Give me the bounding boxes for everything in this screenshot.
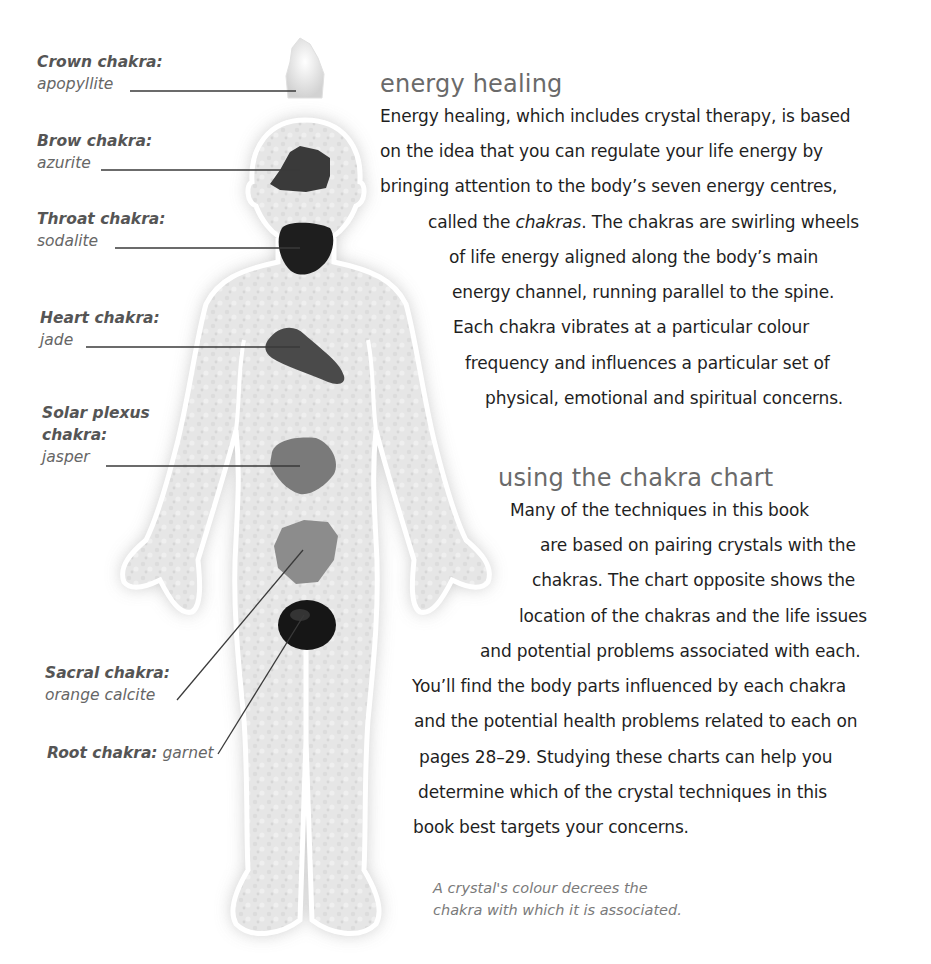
text-line: are based on pairing crystals with the xyxy=(540,535,856,555)
chakra-label-solar-plexus: Solar plexus chakra: jasper xyxy=(42,402,150,468)
chakra-label-root: Root chakra: garnet xyxy=(47,742,214,764)
chakra-label-throat: Throat chakra: sodalite xyxy=(37,208,165,252)
heading-energy-healing: energy healing xyxy=(380,70,563,98)
stone-name: azurite xyxy=(37,154,91,172)
caption-line: A crystal's colour decrees the xyxy=(433,877,682,899)
chakra-label-brow: Brow chakra: azurite xyxy=(37,130,152,174)
text-line: Energy healing, which includes crystal t… xyxy=(380,106,851,126)
stone-name: sodalite xyxy=(37,232,98,250)
text-line: You’ll find the body parts influenced by… xyxy=(412,676,846,696)
text-line: bringing attention to the body’s seven e… xyxy=(380,176,837,196)
text-line: chakras. The chart opposite shows the xyxy=(532,570,855,590)
stone-name: jasper xyxy=(42,448,90,466)
stone-name: apopyllite xyxy=(37,75,113,93)
text-line: and potential problems associated with e… xyxy=(480,641,861,661)
chakra-label-crown: Crown chakra: apopyllite xyxy=(37,51,163,95)
text-line: location of the chakras and the life iss… xyxy=(519,606,867,626)
chakra-name: Sacral chakra: xyxy=(45,662,170,684)
figure-caption: A crystal's colour decrees the chakra wi… xyxy=(433,877,682,921)
text-line: pages 28–29. Studying these charts can h… xyxy=(419,747,832,767)
text-line: book best targets your concerns. xyxy=(413,817,689,837)
text-line: Many of the techniques in this book xyxy=(510,500,809,520)
text-line: and the potential health problems relate… xyxy=(414,711,857,731)
chakra-label-sacral: Sacral chakra: orange calcite xyxy=(45,662,170,706)
chakra-name-line1: Solar plexus xyxy=(42,402,150,424)
emphasis-chakras: chakras xyxy=(516,212,582,232)
stone-name: jade xyxy=(40,331,73,349)
text-line: called the chakras. The chakras are swir… xyxy=(428,212,859,232)
text-line: energy channel, running parallel to the … xyxy=(452,282,834,302)
text-line: Each chakra vibrates at a particular col… xyxy=(453,317,809,337)
heading-using-chakra-chart: using the chakra chart xyxy=(498,464,773,492)
chakra-name: Root chakra: xyxy=(47,744,158,762)
stone-apopyllite xyxy=(286,38,324,98)
chakra-name: Crown chakra: xyxy=(37,51,163,73)
chakra-name: Brow chakra: xyxy=(37,130,152,152)
stone-name: orange calcite xyxy=(45,686,155,704)
text-line: determine which of the crystal technique… xyxy=(418,782,827,802)
chakra-name: Throat chakra: xyxy=(37,208,165,230)
text-line: of life energy aligned along the body’s … xyxy=(449,247,818,267)
text-line: physical, emotional and spiritual concer… xyxy=(485,388,843,408)
text-line: frequency and influences a particular se… xyxy=(465,353,830,373)
chakra-name-line2: chakra: xyxy=(42,424,150,446)
caption-line: chakra with which it is associated. xyxy=(433,899,682,921)
stone-name: garnet xyxy=(163,744,214,762)
chakra-label-heart: Heart chakra: jade xyxy=(40,307,160,351)
chakra-name: Heart chakra: xyxy=(40,307,160,329)
text-line: on the idea that you can regulate your l… xyxy=(380,141,823,161)
